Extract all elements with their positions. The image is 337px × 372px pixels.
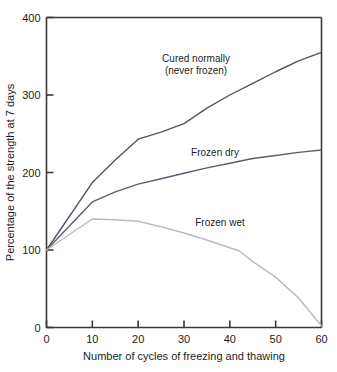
series-annotation-line: (never frozen): [165, 65, 227, 76]
chart-figure: 01002003004000102030405060Number of cycl…: [0, 0, 337, 372]
series-annotation-1: Cured normally(never frozen): [162, 53, 230, 76]
x-axis-title: Number of cycles of freezing and thawing: [83, 350, 285, 362]
series-annotation-line: Cured normally: [162, 53, 230, 64]
series-annotation-line: Frozen wet: [195, 217, 245, 228]
y-tick-label-300: 300: [22, 89, 40, 101]
x-tick-label-50: 50: [270, 333, 282, 345]
series-line-frozen-dry: [47, 150, 322, 250]
y-axis-title: Percentage of the strength at 7 days: [4, 83, 16, 261]
x-tick-label-60: 60: [315, 333, 327, 345]
y-tick-label-100: 100: [22, 244, 40, 256]
y-tick-label-400: 400: [22, 12, 40, 24]
y-tick-label-200: 200: [22, 167, 40, 179]
series-line-frozen-wet: [47, 219, 322, 326]
x-tick-label-10: 10: [86, 333, 98, 345]
x-tick-label-30: 30: [178, 333, 190, 345]
x-tick-label-0: 0: [43, 333, 49, 345]
x-tick-label-40: 40: [224, 333, 236, 345]
series-annotation-3: Frozen wet: [195, 217, 245, 228]
series-line-cured-normally-never-frozen: [47, 52, 322, 250]
y-tick-label-0: 0: [34, 322, 40, 334]
x-tick-label-20: 20: [132, 333, 144, 345]
series-annotation-2: Frozen dry: [191, 147, 239, 158]
line-chart: 01002003004000102030405060Number of cycl…: [0, 0, 337, 372]
series-annotation-line: Frozen dry: [191, 147, 239, 158]
